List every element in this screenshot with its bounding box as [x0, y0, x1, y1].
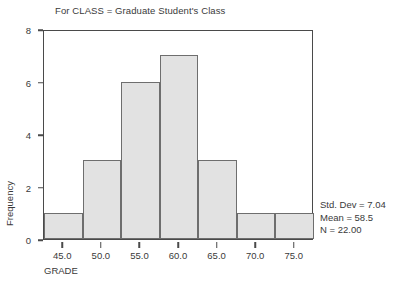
- y-tick-label: 4: [26, 130, 31, 141]
- x-tick-mark: [254, 242, 256, 248]
- histogram-chart: For CLASS = Graduate Student's Class 024…: [0, 0, 413, 293]
- x-tick-mark: [177, 242, 179, 248]
- y-tick-label: 8: [26, 25, 31, 36]
- y-axis-title: Frequency: [4, 164, 15, 244]
- x-tick-label: 60.0: [169, 250, 188, 261]
- histogram-bar: [83, 160, 122, 239]
- y-tick-label: 2: [26, 182, 31, 193]
- x-tick-label: 65.0: [207, 250, 226, 261]
- x-tick-mark: [62, 242, 64, 248]
- x-axis-title: GRADE: [44, 265, 78, 276]
- x-tick-mark: [139, 242, 141, 248]
- x-tick-label: 45.0: [53, 250, 72, 261]
- x-tick-mark: [216, 242, 218, 248]
- chart-title: For CLASS = Graduate Student's Class: [55, 5, 225, 16]
- x-tick-mark: [293, 242, 295, 248]
- x-tick-label: 55.0: [130, 250, 149, 261]
- histogram-bar: [275, 213, 314, 239]
- bars-layer: [44, 31, 312, 239]
- histogram-bar: [44, 213, 83, 239]
- histogram-bar: [121, 82, 160, 240]
- plot-area: [43, 30, 313, 240]
- stats-annotation-box: Std. Dev = 7.04 Mean = 58.5 N = 22.00: [320, 199, 386, 237]
- histogram-bar: [198, 160, 237, 239]
- x-tick-label: 70.0: [246, 250, 265, 261]
- x-tick-label: 50.0: [92, 250, 111, 261]
- histogram-bar: [237, 213, 276, 239]
- y-tick-label: 6: [26, 77, 31, 88]
- stat-std-dev: Std. Dev = 7.04: [320, 199, 386, 212]
- stat-mean: Mean = 58.5: [320, 212, 386, 225]
- stat-n: N = 22.00: [320, 224, 386, 237]
- x-tick-label: 75.0: [284, 250, 303, 261]
- x-tick-mark: [100, 242, 102, 248]
- histogram-bar: [160, 55, 199, 239]
